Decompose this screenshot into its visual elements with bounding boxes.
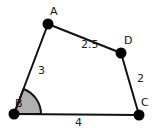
label-c: C — [141, 96, 149, 109]
diagram-canvas: A B C D 3 4 2 2.5 — [0, 0, 154, 134]
point-b — [9, 109, 20, 120]
point-c — [134, 110, 145, 121]
label-a: A — [50, 5, 58, 18]
point-a — [43, 19, 54, 30]
length-bc: 4 — [75, 116, 82, 129]
point-d — [116, 48, 127, 59]
label-b: B — [15, 97, 23, 110]
side-bc — [14, 114, 139, 115]
label-d: D — [124, 34, 132, 47]
length-ab: 3 — [38, 64, 45, 77]
length-cd: 2 — [137, 72, 144, 85]
length-da: 2.5 — [81, 38, 99, 51]
